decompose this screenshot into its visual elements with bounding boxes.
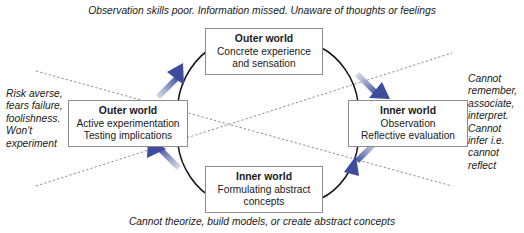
curve-right-to-bottom bbox=[320, 145, 358, 199]
right-annotation-line7: cannot bbox=[468, 147, 524, 159]
node-top-title: Outer world bbox=[212, 33, 316, 45]
right-annotation-line1: Cannot bbox=[468, 73, 524, 85]
right-annotation-line6: infer i.e. bbox=[468, 135, 524, 147]
node-left-line2: Testing implications bbox=[75, 130, 181, 142]
right-annotation-line8: reflect bbox=[468, 160, 524, 172]
bottom-caption: Cannot theorize, build models, or create… bbox=[0, 216, 524, 229]
arrow-left-to-top-icon bbox=[156, 63, 184, 99]
curve-top-to-right bbox=[320, 47, 358, 102]
node-top-line2: and sensation bbox=[212, 58, 316, 70]
node-box-outer-world-top[interactable]: Outer world Concrete experience and sens… bbox=[205, 28, 323, 75]
left-annotation-line5: experiment bbox=[6, 138, 68, 150]
node-right-line1: Observation bbox=[355, 118, 461, 130]
node-top-line1: Concrete experience bbox=[212, 46, 316, 58]
left-annotation-line3: foolishness. bbox=[6, 113, 68, 125]
right-annotation: Cannot remember, associate, interpret. C… bbox=[468, 73, 524, 172]
node-left-title: Outer world bbox=[75, 105, 181, 117]
right-annotation-line2: remember, bbox=[468, 85, 524, 97]
node-left-line1: Active experimentation bbox=[75, 118, 181, 130]
node-box-outer-world-left[interactable]: Outer world Active experimentation Testi… bbox=[68, 100, 188, 147]
node-bottom-line2: concepts bbox=[212, 196, 316, 208]
node-bottom-line1: Formulating abstract bbox=[212, 184, 316, 196]
left-annotation-line4: Won't bbox=[6, 125, 68, 137]
arrow-top-to-right-icon bbox=[355, 72, 390, 99]
right-annotation-line4: interpret. bbox=[468, 110, 524, 122]
left-annotation: Risk averse, fears failure, foolishness.… bbox=[6, 88, 68, 150]
diagram-root: Observation skills poor. Information mis… bbox=[0, 0, 524, 233]
node-box-inner-world-bottom[interactable]: Inner world Formulating abstract concept… bbox=[205, 166, 323, 213]
top-caption: Observation skills poor. Information mis… bbox=[0, 5, 524, 18]
left-annotation-line1: Risk averse, bbox=[6, 88, 68, 100]
right-annotation-line5: Cannot bbox=[468, 123, 524, 135]
node-right-line2: Reflective evaluation bbox=[355, 130, 461, 142]
node-bottom-title: Inner world bbox=[212, 171, 316, 183]
node-right-title: Inner world bbox=[355, 105, 461, 117]
left-annotation-line2: fears failure, bbox=[6, 100, 68, 112]
right-annotation-line3: associate, bbox=[468, 98, 524, 110]
node-box-inner-world-right[interactable]: Inner world Observation Reflective evalu… bbox=[348, 100, 468, 147]
